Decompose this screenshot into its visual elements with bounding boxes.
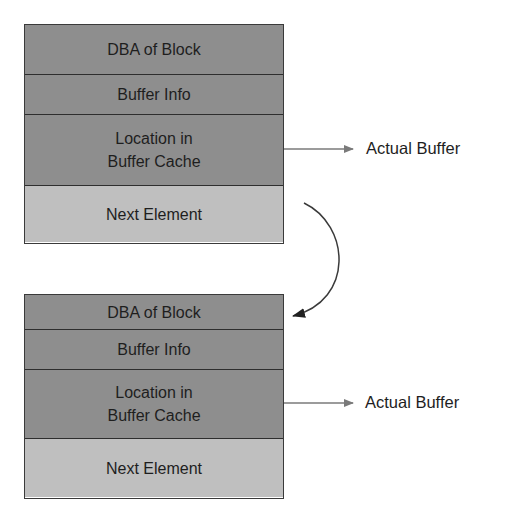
actual-buffer-label-2: Actual Buffer xyxy=(365,393,459,412)
connector-arrows xyxy=(0,0,508,516)
actual-buffer-label-1: Actual Buffer xyxy=(366,139,460,158)
next-element-curved-arrow xyxy=(293,203,339,316)
